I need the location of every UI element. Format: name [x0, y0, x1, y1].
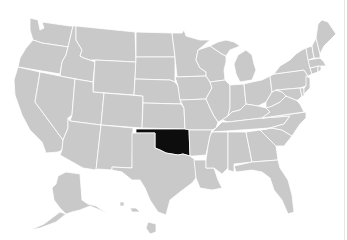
state-wyoming[interactable] [93, 60, 136, 95]
state-kansas[interactable] [142, 103, 185, 129]
state-south-dakota[interactable] [135, 57, 175, 82]
state-florida[interactable] [234, 160, 294, 214]
state-mississippi[interactable] [206, 132, 228, 174]
state-hawaii-islets-2[interactable] [120, 202, 124, 206]
state-rhode-island[interactable] [318, 66, 321, 72]
state-hawaii-islets[interactable] [130, 208, 140, 212]
state-hawaii[interactable] [146, 222, 156, 234]
right-edge-divider [344, 0, 345, 240]
state-north-dakota[interactable] [136, 32, 175, 57]
state-alaska[interactable] [52, 172, 108, 214]
state-montana[interactable] [76, 26, 136, 62]
state-new-mexico[interactable] [96, 125, 133, 170]
state-maine[interactable] [316, 20, 336, 54]
state-colorado[interactable] [101, 93, 143, 128]
us-map [0, 0, 347, 240]
state-iowa[interactable] [175, 76, 212, 100]
state-michigan[interactable] [234, 50, 256, 82]
state-alaska-chain[interactable] [30, 212, 66, 230]
